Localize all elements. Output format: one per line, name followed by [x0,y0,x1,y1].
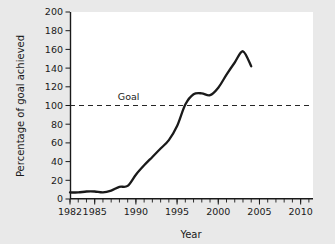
y-tick-label: 200 [45,6,63,17]
y-tick-label: 160 [45,44,63,55]
y-tick-label: 20 [51,175,63,186]
y-tick-label: 120 [45,81,63,92]
y-tick-label: 40 [51,156,63,167]
x-axis-title: Year [179,229,202,240]
x-tick-label: 1982 [58,206,82,217]
x-tick-label: 2000 [206,206,230,217]
y-tick-label: 140 [45,63,63,74]
x-tick-label: 2005 [247,206,271,217]
y-tick-label: 80 [51,119,63,130]
x-tick-label: 2010 [289,206,313,217]
chart-figure: 020406080100120140160180200 198219851990… [0,0,335,244]
x-tick-label: 1985 [83,206,107,217]
x-tick-label: 1995 [165,206,189,217]
y-axis-title: Percentage of goal achieved [15,35,26,177]
y-tick-label: 180 [45,25,63,36]
goal-line-label: Goal [118,91,140,102]
y-tick-label: 0 [57,193,63,204]
x-tick-label: 1990 [124,206,148,217]
line-chart: 020406080100120140160180200 198219851990… [0,0,335,244]
y-tick-label: 100 [45,100,63,111]
y-tick-label: 60 [51,137,63,148]
